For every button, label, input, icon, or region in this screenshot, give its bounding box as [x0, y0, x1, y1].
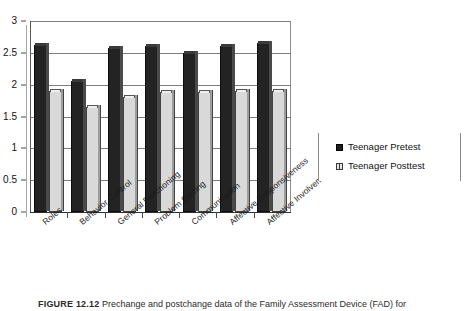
bar-top-face [161, 90, 172, 93]
bar-side-face [135, 95, 138, 211]
y-axis-tick-label: 2.5 [3, 48, 17, 58]
bar-posttest[interactable] [198, 92, 211, 212]
y-axis-tick-mark [21, 84, 26, 85]
y-axis-tick-label: 2 [11, 80, 17, 90]
bar-posttest[interactable] [123, 97, 136, 212]
y-axis-tick-label: 0 [11, 207, 17, 217]
y-axis-tick-mark [21, 148, 26, 149]
bar-chart: 00.511.522.53 RolesBehavior ControlGener… [0, 0, 320, 290]
bar-side-face [61, 89, 64, 211]
legend-label-posttest: Teenager Posttest [348, 161, 425, 171]
bar-top-face [221, 44, 232, 47]
bar-top-face [146, 44, 157, 47]
bar-posttest[interactable] [49, 91, 62, 212]
y-axis-tick-mark [21, 116, 26, 117]
bar-group [30, 21, 67, 212]
bar-posttest[interactable] [86, 107, 99, 212]
bar-side-face [172, 90, 175, 211]
y-axis-tick-mark [21, 212, 26, 213]
legend-item-posttest[interactable]: Teenager Posttest [336, 160, 425, 172]
y-axis-tick-label: 1 [11, 143, 17, 153]
x-axis-labels: RolesBehavior ControlGeneral Functioning… [0, 218, 320, 288]
legend-item-pretest[interactable]: Teenager Pretest [336, 141, 420, 153]
bar-top-face [184, 51, 195, 54]
bar-top-face [50, 89, 61, 92]
y-axis-tick-label: 1.5 [3, 112, 17, 122]
bar-pretest[interactable] [34, 45, 47, 212]
axis-depth-line [26, 25, 27, 217]
hollow-square-icon [336, 163, 343, 170]
figure-caption: FIGURE 12.12 Prechange and postchange da… [38, 299, 468, 310]
bar-top-face [273, 89, 284, 92]
filled-square-icon [336, 144, 343, 151]
bar-top-face [236, 89, 247, 92]
figure-root: 00.511.522.53 RolesBehavior ControlGener… [0, 0, 476, 311]
y-axis-tick-mark [21, 21, 26, 22]
y-axis-tick-label: 3 [11, 16, 17, 26]
bar-posttest[interactable] [272, 91, 285, 212]
figure-caption-text: Prechange and postchange data of the Fam… [102, 299, 406, 309]
legend: Teenager Pretest Teenager Posttest [318, 133, 461, 181]
bar-side-face [284, 89, 287, 211]
bar-top-face [109, 46, 120, 49]
bar-top-face [124, 95, 135, 98]
bar-group [67, 21, 104, 212]
bar-posttest[interactable] [160, 92, 173, 212]
y-axis-tick-mark [21, 180, 26, 181]
bar-top-face [72, 79, 83, 82]
y-axis-ticks: 00.511.522.53 [0, 21, 26, 212]
bar-posttest[interactable] [235, 91, 248, 212]
bar-side-face [210, 90, 213, 211]
legend-label-pretest: Teenager Pretest [348, 142, 420, 152]
y-axis-tick-mark [21, 52, 26, 53]
bar-top-face [258, 41, 269, 44]
bar-side-face [247, 89, 250, 211]
bar-top-face [199, 90, 210, 93]
bar-pretest[interactable] [71, 81, 84, 212]
bar-side-face [98, 105, 101, 211]
bar-top-face [87, 105, 98, 108]
bar-top-face [35, 43, 46, 46]
figure-caption-label: FIGURE 12.12 [38, 299, 99, 309]
y-axis-tick-label: 0.5 [3, 175, 17, 185]
